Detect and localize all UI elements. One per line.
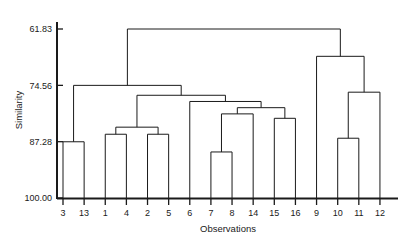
dendrogram-merge	[274, 118, 295, 198]
merge-link	[237, 108, 285, 119]
leaf-label: 5	[166, 208, 171, 218]
merge-link	[348, 92, 380, 198]
merge-link	[105, 134, 126, 198]
merge-link	[127, 29, 340, 85]
merge-link	[211, 152, 232, 198]
y-tick-label: 74.56	[29, 81, 52, 91]
y-axis-title: Similarity	[13, 90, 24, 129]
leaf-label: 7	[208, 208, 213, 218]
dendrogram-links	[63, 29, 380, 198]
leaf-label: 15	[269, 208, 279, 218]
chart-axes	[57, 22, 398, 199]
leaf-label: 3	[60, 208, 65, 218]
dendrogram-svg: 61.8374.5687.28100.00 313142567814151691…	[0, 0, 407, 246]
dendrogram-merge	[237, 108, 285, 119]
dendrogram-merge	[211, 152, 232, 198]
dendrogram-merge	[338, 138, 359, 198]
leaf-label: 8	[230, 208, 235, 218]
y-tick-label: 100.00	[24, 193, 52, 203]
merge-link	[190, 101, 261, 198]
leaf-label: 12	[375, 208, 385, 218]
merge-link	[116, 127, 158, 134]
dendrogram-chart: 61.8374.5687.28100.00 313142567814151691…	[0, 0, 407, 246]
dendrogram-merge	[137, 95, 225, 127]
dendrogram-merge	[127, 29, 340, 85]
merge-link	[137, 95, 225, 127]
x-axis-title: Observations	[200, 223, 256, 234]
leaf-label: 10	[333, 208, 343, 218]
dendrogram-merge	[348, 92, 380, 198]
x-axis-tick-labels: 31314256781415169101112	[60, 208, 384, 218]
merge-link	[274, 118, 295, 198]
y-tick-label: 61.83	[29, 24, 52, 34]
dendrogram-merge	[116, 127, 158, 134]
merge-link	[148, 134, 169, 198]
y-tick-label: 87.28	[29, 137, 52, 147]
leaf-label: 9	[314, 208, 319, 218]
leaf-label: 11	[354, 208, 363, 218]
dendrogram-merge	[190, 101, 261, 198]
merge-link	[74, 85, 182, 141]
dendrogram-merge	[74, 85, 182, 141]
dendrogram-merge	[105, 134, 126, 198]
dendrogram-merge	[317, 56, 365, 198]
dendrogram-merge	[221, 114, 253, 198]
leaf-label: 1	[103, 208, 108, 218]
leaf-label: 13	[79, 208, 89, 218]
leaf-label: 6	[187, 208, 192, 218]
dendrogram-merge	[63, 142, 84, 198]
merge-link	[338, 138, 359, 198]
leaf-label: 16	[290, 208, 300, 218]
leaf-label: 14	[248, 208, 258, 218]
merge-link	[221, 114, 253, 198]
dendrogram-merge	[148, 134, 169, 198]
leaf-label: 2	[145, 208, 150, 218]
y-axis-tick-labels: 61.8374.5687.28100.00	[24, 24, 52, 203]
merge-link	[317, 56, 365, 198]
leaf-label: 4	[124, 208, 129, 218]
merge-link	[63, 142, 84, 198]
